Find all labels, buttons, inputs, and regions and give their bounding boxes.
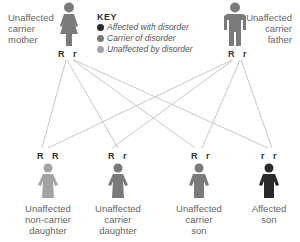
mother-label-line: carrier [8, 23, 54, 34]
father-label: Unaffected carrier father [246, 12, 292, 45]
child-label-line: daughter [88, 225, 148, 236]
child-label-line: son [239, 214, 299, 225]
key-item-label: Affected with disorder [107, 22, 189, 32]
father-genotype: R r [228, 49, 250, 59]
key-item-affected: Affected with disorder [97, 22, 193, 33]
child-genotype: R r [108, 151, 130, 161]
key-title: KEY [97, 12, 193, 22]
child-genotype: R R [37, 151, 62, 161]
male-figure-icon [222, 2, 248, 48]
father-label-line: carrier [246, 23, 292, 34]
child-genotype: r r [261, 151, 280, 161]
child-label-line: Unaffected [88, 203, 148, 214]
child-label: Unaffected carrier son [169, 203, 229, 236]
child-label-line: carrier [169, 214, 229, 225]
child-label-line: Unaffected [169, 203, 229, 214]
mother-label-line: Unaffected [8, 12, 54, 23]
child-label-line: non-carrier [18, 214, 78, 225]
son-figure-icon [257, 163, 281, 199]
key-legend: KEY Affected with disorder Carrier of di… [97, 12, 193, 55]
mother-label-line: mother [8, 34, 54, 45]
carrier-swatch-icon [97, 35, 104, 42]
affected-swatch-icon [97, 24, 104, 31]
mother-genotype: R r [58, 49, 80, 59]
child-label: Unaffected carrier daughter [88, 203, 148, 236]
child-label-line: Unaffected [18, 203, 78, 214]
child-label: Unaffected non-carrier daughter [18, 203, 78, 236]
child-label-line: carrier [88, 214, 148, 225]
key-item-label: Unaffected by disorder [107, 44, 193, 54]
son-figure-icon [187, 163, 211, 199]
child-genotype: R r [191, 151, 213, 161]
child-label-line: daughter [18, 225, 78, 236]
father-label-line: Unaffected [246, 12, 292, 23]
daughter-figure-icon [106, 163, 130, 199]
female-figure-icon [56, 2, 82, 48]
child-label-line: son [169, 225, 229, 236]
daughter-figure-icon [36, 163, 60, 199]
key-item-carrier: Carrier of disorder [97, 33, 193, 44]
unaffected-swatch-icon [97, 46, 104, 53]
father-label-line: father [246, 34, 292, 45]
key-item-unaffected: Unaffected by disorder [97, 44, 193, 55]
child-label-line: Affected [239, 203, 299, 214]
mother-label: Unaffected carrier mother [8, 12, 54, 45]
key-item-label: Carrier of disorder [107, 33, 176, 43]
child-label: Affected son [239, 203, 299, 225]
